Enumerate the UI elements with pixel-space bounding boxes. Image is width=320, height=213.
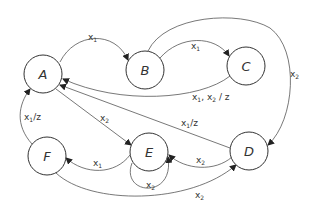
node-f[interactable]: F <box>28 137 66 175</box>
svg-text:A: A <box>38 67 48 82</box>
node-d[interactable]: D <box>230 132 268 170</box>
label-f-d: x2 <box>195 190 204 201</box>
label-b-c: x1 <box>191 41 200 52</box>
node-e[interactable]: E <box>130 133 168 171</box>
svg-text:B: B <box>141 63 150 78</box>
state-diagram: A B C D E F x1 x1 x2 x1, x2 / z x1/z x2 … <box>0 0 320 213</box>
label-a-e: x2 <box>100 113 109 124</box>
node-c[interactable]: C <box>227 47 265 85</box>
label-f-a: x1/z <box>24 112 41 123</box>
label-b-d: x2 <box>290 69 299 80</box>
label-d-a: x1/z <box>181 118 198 129</box>
svg-text:C: C <box>241 59 251 74</box>
node-a[interactable]: A <box>24 55 62 93</box>
label-c-a: x1, x2 / z <box>192 92 230 103</box>
svg-text:F: F <box>43 149 51 164</box>
node-b[interactable]: B <box>126 51 164 89</box>
svg-text:E: E <box>145 145 154 160</box>
label-a-b: x1 <box>88 32 97 43</box>
label-e-f: x1 <box>93 158 102 169</box>
label-e-e: x2 <box>146 180 155 191</box>
label-d-e: x2 <box>196 155 205 166</box>
svg-text:D: D <box>244 144 254 159</box>
